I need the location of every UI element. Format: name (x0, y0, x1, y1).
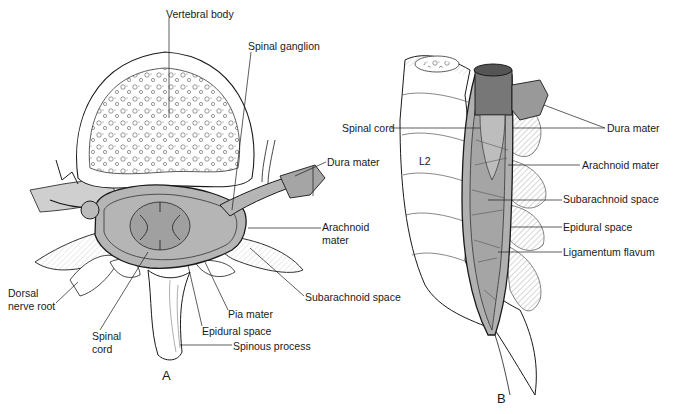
label-subarachnoid-space-a: Subarachnoid space (305, 291, 401, 303)
label-dorsal-nerve-root-line1: Dorsal (8, 287, 38, 299)
label-arachnoid-mater-b: Arachnoid mater (582, 159, 659, 171)
label-vertebral-body: Vertebral body (166, 8, 234, 20)
label-arachnoid-mater-a-line2: mater (322, 234, 349, 246)
spinal-anatomy-figure: Vertebral body Spinal ganglion Dura mate… (0, 0, 674, 414)
label-spinal-ganglion: Spinal ganglion (248, 40, 320, 52)
label-ligamentum-flavum: Ligamentum flavum (563, 246, 655, 258)
label-spinous-process: Spinous process (233, 340, 311, 352)
label-spinal-cord-b: Spinal cord (342, 122, 395, 134)
label-dura-mater-a: Dura mater (327, 156, 380, 168)
label-spinal-cord-a-line2: cord (92, 343, 112, 355)
panel-letter-a: A (162, 368, 171, 383)
label-l2: L2 (419, 155, 431, 167)
label-spinal-cord-a-line1: Spinal (92, 330, 121, 342)
label-arachnoid-mater-a-line1: Arachnoid (322, 221, 369, 233)
label-dorsal-nerve-root-line2: nerve root (8, 300, 55, 312)
label-epidural-space-b: Epidural space (563, 221, 632, 233)
label-subarachnoid-space-b: Subarachnoid space (563, 193, 659, 205)
panel-letter-b: B (497, 391, 506, 406)
panel-a-drawing (30, 18, 326, 360)
label-dura-mater-b: Dura mater (607, 122, 660, 134)
label-epidural-space-a: Epidural space (202, 325, 271, 337)
label-pia-mater: Pia mater (228, 308, 273, 320)
